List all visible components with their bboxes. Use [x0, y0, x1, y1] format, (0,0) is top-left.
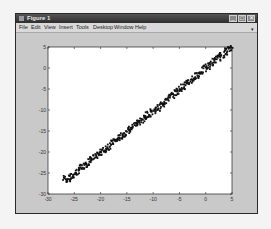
x-tick-label: -25 [71, 196, 78, 202]
y-tick-label: -5 [42, 86, 47, 92]
y-tick-label: 5 [43, 44, 46, 50]
y-tick-label: -10 [39, 107, 46, 113]
scatter-plot: -30-25-20-15-10-50550-5-10-15-20-25-30 [0, 0, 271, 229]
x-tick-label: -10 [150, 196, 157, 202]
x-tick-label: 0 [204, 196, 207, 202]
y-tick-label: -20 [39, 149, 46, 155]
y-tick-label: 0 [43, 65, 46, 71]
x-tick-label: -20 [97, 196, 104, 202]
x-tick-label: -15 [123, 196, 130, 202]
y-tick-label: -30 [39, 191, 46, 197]
x-tick-label: 5 [231, 196, 234, 202]
y-tick-label: -15 [39, 128, 46, 134]
x-tick-label: -5 [177, 196, 182, 202]
y-tick-label: -25 [39, 170, 46, 176]
